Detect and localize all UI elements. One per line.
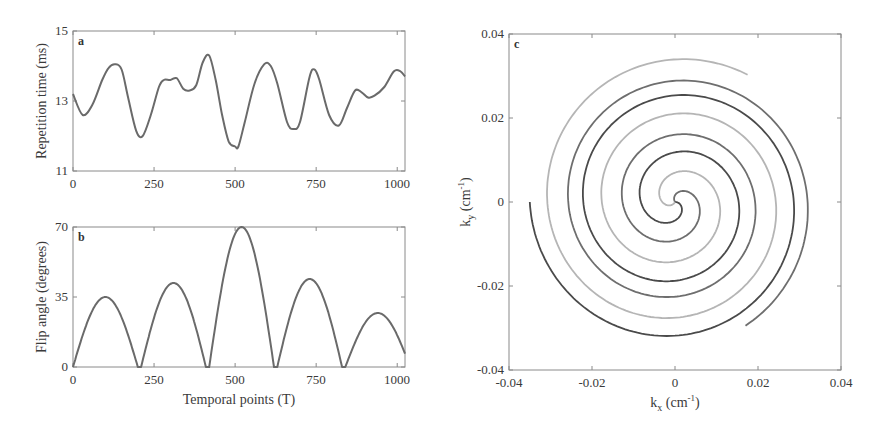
panel-b-letter: b (78, 230, 85, 244)
figure: a 11 13 15 0 250 500 750 1000 Repetition… (0, 0, 878, 433)
xtick-label: 750 (306, 372, 326, 387)
panel-c-xtick-labels: -0.04 -0.02 0 0.02 0.04 (495, 375, 852, 390)
xtick-label: 0 (672, 375, 679, 390)
panel-b-ylabel: Flip angle (degrees) (34, 241, 50, 353)
panel-c: c 0.04 0.02 0 -0.02 -0.04 -0.04 -0.02 0 … (456, 26, 853, 413)
panel-b-xlabel: Temporal points (T) (183, 392, 296, 408)
ytick-label: 0 (62, 359, 69, 374)
xtick-label: 500 (225, 372, 245, 387)
panel-a-ylabel: Repetition time (ms) (34, 43, 50, 159)
panel-b-flip-angle-curve (73, 227, 405, 367)
xtick-label: 750 (306, 176, 326, 191)
panel-b: b 0 35 70 0 250 500 750 1000 Flip angle … (34, 219, 410, 408)
panel-c-ytick-labels: 0.04 0.02 0 -0.02 -0.04 (477, 26, 505, 377)
ytick-label: -0.02 (477, 278, 504, 293)
xtick-label: 500 (225, 176, 245, 191)
panel-c-letter: c (514, 37, 520, 51)
spiral-arm-2 (568, 81, 808, 326)
ytick-label: 13 (55, 93, 68, 108)
ytick-label: 70 (55, 219, 68, 234)
panel-c-xlabel: kx (cm-1) (650, 393, 700, 413)
xtick-label: 0 (70, 176, 77, 191)
panel-b-ticks (73, 227, 405, 367)
panel-a-xtick-labels: 0 250 500 750 1000 (70, 176, 410, 191)
panel-a-tr-curve (73, 55, 405, 149)
xtick-label: 250 (144, 372, 164, 387)
panel-c-ylabel: ky (cm-1) (456, 177, 476, 227)
ytick-label: 35 (55, 289, 68, 304)
xtick-label: 250 (144, 176, 164, 191)
panel-b-xtick-labels: 0 250 500 750 1000 (70, 372, 410, 387)
panel-b-ytick-labels: 0 35 70 (55, 219, 68, 374)
xtick-label: -0.02 (578, 375, 605, 390)
panel-a-letter: a (78, 34, 84, 48)
ytick-label: 0.04 (481, 26, 504, 41)
panel-c-spiral-trajectory (530, 59, 808, 336)
ytick-label: 0.02 (481, 110, 504, 125)
xtick-label: 0.04 (830, 375, 853, 390)
panel-a-frame (73, 31, 405, 171)
xtick-label: 0.02 (747, 375, 770, 390)
xtick-label: 1000 (384, 176, 410, 191)
panel-a-ytick-labels: 11 13 15 (55, 23, 68, 178)
panel-a-ticks (73, 31, 405, 171)
ytick-label: 11 (55, 163, 68, 178)
ytick-label: 0 (498, 194, 505, 209)
xtick-label: 0 (70, 372, 77, 387)
xtick-label: 1000 (384, 372, 410, 387)
ytick-label: 15 (55, 23, 68, 38)
panel-b-frame (73, 227, 405, 367)
panel-a: a 11 13 15 0 250 500 750 1000 Repetition… (34, 23, 410, 191)
xtick-label: -0.04 (495, 375, 523, 390)
